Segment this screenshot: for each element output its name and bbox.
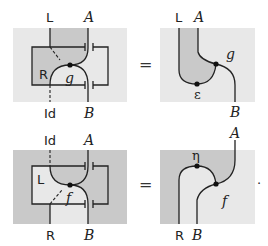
equals-sign: = [139, 55, 152, 74]
equals-sign: = [139, 175, 152, 194]
region-label: L [37, 172, 45, 187]
trailing-period: . [257, 172, 261, 187]
node-label-g: g [226, 46, 235, 62]
node-label-epsilon: ε [194, 87, 201, 102]
label-L: L [46, 10, 54, 25]
top-right-diagram [160, 28, 255, 102]
label-B: B [191, 227, 202, 243]
top-left-diagram [13, 28, 127, 102]
label-B: B [229, 104, 240, 120]
label-A: A [82, 9, 94, 25]
region-label: R [39, 67, 48, 82]
label-B: B [83, 105, 94, 121]
label-Id: Id [44, 106, 56, 121]
label-R: R [175, 228, 184, 243]
bottom-left-diagram [13, 150, 127, 224]
node-label: g [65, 70, 74, 86]
label-R: R [46, 228, 55, 243]
node-dot [67, 62, 72, 67]
node-label-eta: η [192, 148, 200, 163]
label-L: L [175, 10, 183, 25]
label-A: A [192, 9, 204, 25]
label-B: B [83, 227, 94, 243]
bottom-right-diagram [160, 140, 255, 224]
label-A: A [82, 132, 94, 148]
string-diagram-canvas: L A R g Id B = L A g ε B Id A L f R B = [0, 0, 268, 246]
label-A: A [228, 125, 240, 141]
label-Id: Id [44, 133, 56, 148]
